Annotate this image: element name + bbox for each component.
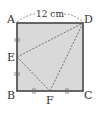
vertex-d-label: D [84,13,93,26]
square-abcd [17,23,83,91]
vertex-c-label: C [84,89,92,102]
dimension-label: 12 cm [36,9,64,19]
vertex-b-label: B [7,89,15,102]
dimension-bracket-left [17,14,36,22]
dimension-bracket-right [64,14,83,22]
vertex-e-label: E [7,51,15,64]
geometry-figure: 12 cm A D E B F C [0,0,98,115]
vertex-f-label: F [46,94,54,107]
vertex-a-label: A [6,13,16,26]
